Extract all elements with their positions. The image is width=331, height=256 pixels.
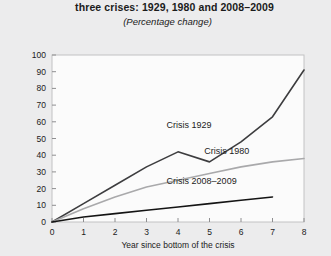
y-tick-label: 70 bbox=[37, 100, 47, 110]
x-tick-label: 8 bbox=[302, 227, 307, 237]
y-tick-label: 30 bbox=[37, 167, 47, 177]
line-chart: 0102030405060708090100 012345678 Crisis … bbox=[0, 0, 331, 256]
y-tick-label: 0 bbox=[41, 217, 46, 227]
y-tick-label: 20 bbox=[37, 184, 47, 194]
y-tick-label: 10 bbox=[37, 200, 47, 210]
y-tick-label: 60 bbox=[37, 117, 47, 127]
x-tick-label: 1 bbox=[81, 227, 86, 237]
x-tick-label: 0 bbox=[50, 227, 55, 237]
x-tick-label: 4 bbox=[176, 227, 181, 237]
x-tick-label: 7 bbox=[270, 227, 275, 237]
x-axis-title: Year since bottom of the crisis bbox=[121, 240, 234, 250]
chart-container: 0102030405060708090100 012345678 Crisis … bbox=[0, 0, 331, 256]
x-tick-label: 3 bbox=[144, 227, 149, 237]
y-tick-label: 50 bbox=[37, 134, 47, 144]
y-tick-label: 80 bbox=[37, 83, 47, 93]
y-tick-label: 40 bbox=[37, 150, 47, 160]
series-label: Crisis 1929 bbox=[167, 120, 212, 130]
y-tick-label: 90 bbox=[37, 67, 47, 77]
x-tick-label: 5 bbox=[207, 227, 212, 237]
x-tick-label: 2 bbox=[113, 227, 118, 237]
series-label: Crisis 1980 bbox=[204, 146, 249, 156]
x-tick-label: 6 bbox=[239, 227, 244, 237]
series-label: Crisis 2008–2009 bbox=[167, 176, 237, 186]
y-tick-label: 100 bbox=[32, 50, 46, 60]
